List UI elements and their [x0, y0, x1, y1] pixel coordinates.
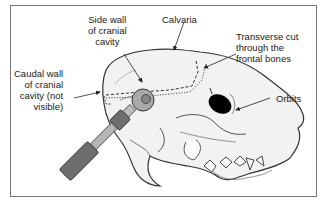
label-side-wall: Side wall of cranial cavity: [88, 14, 127, 47]
label-caudal-wall: Caudal wall of cranial cavity (not visib…: [14, 68, 63, 112]
label-calvaria: Calvaria: [162, 14, 197, 25]
label-orbits: Orbits: [276, 93, 301, 104]
skull: [103, 49, 304, 186]
label-transverse-cut: Transverse cut through the frontal bones: [236, 31, 298, 64]
